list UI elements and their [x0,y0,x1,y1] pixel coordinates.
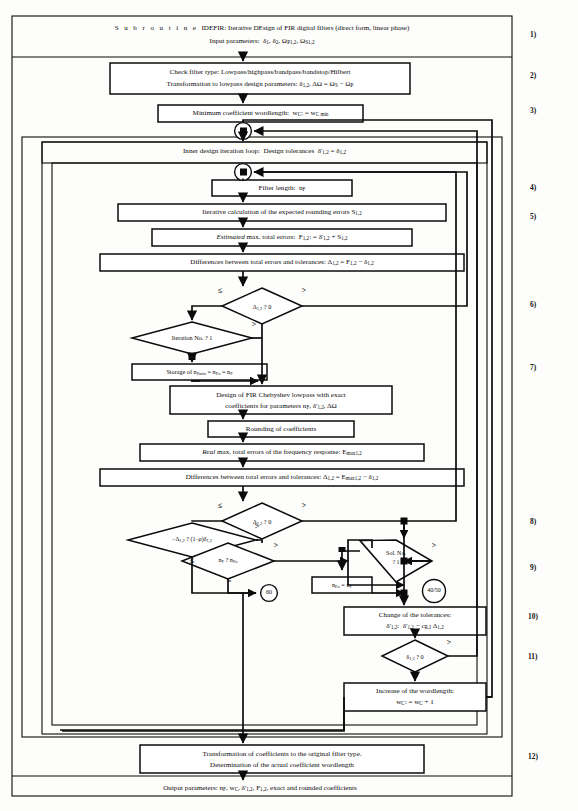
box-change-tolerances [344,607,486,635]
box-real-errors [140,444,424,461]
diamond-delta-estimated [222,288,302,324]
step-number-3: 3) [530,106,536,115]
box-transformation [140,745,424,773]
step-number-9: 9) [530,563,536,572]
box-rounding-coefficients [208,421,354,437]
box-increase-wordlength [344,683,486,711]
diamond-delta-zero [382,640,448,672]
step-number-4: 4) [530,183,536,192]
flowchart-page: S u b r o u t i n e IDEFIR: Iterative DE… [0,0,578,811]
box-differences-1 [100,254,464,271]
step-number-6: 6) [530,300,536,309]
step-number-2: 2) [530,71,536,80]
diamond-iteration-no [132,322,252,354]
box-storage [132,364,267,380]
box-design-chebyshev [170,386,392,414]
step-number-8: 8) [530,517,536,526]
connector-circle-60 [261,585,278,602]
step-number-10: 10) [528,612,538,621]
box-estimated-errors [152,229,412,246]
step-number-7: 7) [530,363,536,372]
flowchart-canvas [0,0,578,811]
step-number-12: 12) [528,752,538,761]
box-rounding-errors [118,204,446,221]
step-number-1: 1) [530,30,536,39]
box-differences-2 [100,469,464,486]
box-filter-length [212,180,352,196]
box-check-filter [110,63,410,94]
step-number-11: 11) [528,652,537,661]
connector-circle-40-50 [423,580,446,603]
step-number-5: 5) [530,212,536,221]
